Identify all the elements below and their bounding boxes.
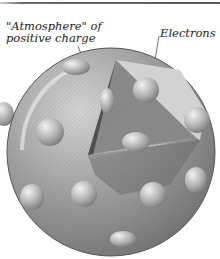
electron [20,184,44,210]
electron [140,182,166,208]
electron [71,181,97,207]
electron [184,107,210,133]
electron [122,132,150,152]
electron [62,59,90,75]
electron [133,77,159,103]
electron [100,88,114,114]
electron [36,118,64,146]
electron [185,167,207,193]
electron [110,231,136,247]
atom-illustration [0,0,220,259]
